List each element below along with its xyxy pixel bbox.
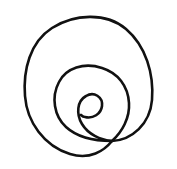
spiral-drawing <box>0 0 177 169</box>
drawing-canvas <box>0 0 177 169</box>
canvas-background <box>0 0 177 169</box>
